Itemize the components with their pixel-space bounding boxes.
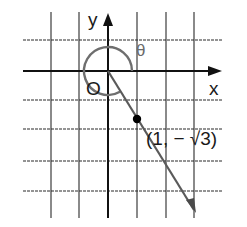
grid-lines [23, 12, 222, 218]
y-axis-label: y [88, 9, 98, 30]
y-axis-arrow-icon [103, 13, 113, 26]
angle-theta-label: θ [136, 41, 145, 60]
point-marker [133, 115, 141, 123]
origin-label: O [86, 78, 101, 99]
x-axis-label: x [209, 78, 219, 99]
point-coordinate-label: (1, − √3) [146, 128, 217, 149]
axes [23, 22, 214, 218]
x-axis-arrow-icon [208, 66, 222, 76]
coordinate-diagram: y x O θ (1, − √3) [0, 0, 247, 227]
